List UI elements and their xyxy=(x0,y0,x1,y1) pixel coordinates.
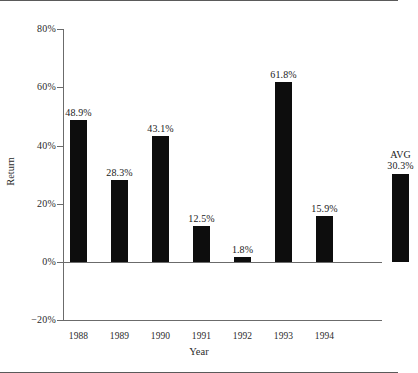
y-axis-tick xyxy=(57,146,64,147)
x-axis-title: Year xyxy=(63,346,335,357)
bar xyxy=(392,174,409,262)
bar-value-label: 43.1% xyxy=(131,123,191,134)
y-axis-line xyxy=(63,29,64,321)
y-axis-title: Return xyxy=(5,142,16,202)
bar-value-label: 15.9% xyxy=(295,203,355,214)
bar xyxy=(193,226,210,262)
bar-chart-plot-area: 80%60%40%20%0%−20% 48.9%28.3%43.1%12.5%1… xyxy=(0,1,398,373)
y-axis-tick-label: 80% xyxy=(8,24,56,34)
bar xyxy=(70,120,87,262)
x-axis-baseline xyxy=(63,320,382,321)
bar xyxy=(152,136,169,262)
x-axis-tick-label: 1989 xyxy=(97,331,143,341)
bar-value-label: 12.5% xyxy=(172,213,232,224)
y-axis-tick xyxy=(57,320,64,321)
x-axis-tick-label: 1988 xyxy=(56,331,102,341)
bar xyxy=(111,180,128,262)
bar xyxy=(316,216,333,262)
x-axis-tick-label: 1990 xyxy=(138,331,184,341)
x-axis-tick-label: 1992 xyxy=(220,331,266,341)
bar-value-label: 61.8% xyxy=(254,69,314,80)
y-axis-tick-label: 0% xyxy=(8,257,56,267)
x-axis-zero-line xyxy=(63,262,382,263)
x-axis-tick-label: 1991 xyxy=(179,331,225,341)
bar xyxy=(275,82,292,262)
y-axis-tick xyxy=(57,262,64,263)
y-axis-tick-label: 60% xyxy=(8,82,56,92)
bar xyxy=(234,257,251,262)
bar-value-label: 48.9% xyxy=(49,107,109,118)
y-axis-tick-label: −20% xyxy=(8,315,56,325)
x-axis-tick-label: 1994 xyxy=(302,331,348,341)
y-axis-tick xyxy=(57,204,64,205)
bar-value-label: 28.3% xyxy=(90,167,150,178)
y-axis-tick xyxy=(57,29,64,30)
y-axis-tick xyxy=(57,87,64,88)
x-axis-tick-label: 1993 xyxy=(261,331,307,341)
bar-value-label: AVG 30.3% xyxy=(371,149,418,171)
bar-value-label: 1.8% xyxy=(213,244,273,255)
